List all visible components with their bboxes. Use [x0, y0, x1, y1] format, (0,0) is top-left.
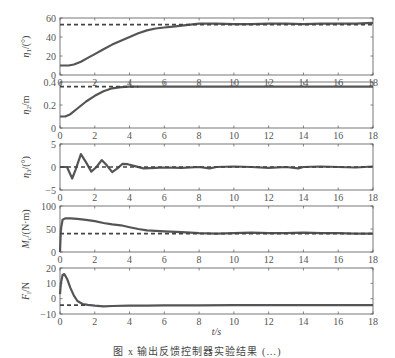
response-line — [60, 218, 373, 252]
x-tick-label: 10 — [229, 192, 239, 203]
y-tick-label: −10 — [40, 309, 56, 320]
y-tick-label: 0 — [51, 247, 56, 258]
y-tick-label: −5 — [45, 185, 56, 196]
y-axis-label: η3/(°) — [20, 156, 33, 178]
x-tick-label: 16 — [333, 192, 343, 203]
x-tick-label: 2 — [92, 316, 97, 327]
x-tick-label: 10 — [229, 316, 239, 327]
x-tick-label: 18 — [368, 130, 378, 141]
x-tick-label: 18 — [368, 316, 378, 327]
x-tick-label: 16 — [333, 254, 343, 265]
x-tick-label: 14 — [298, 130, 308, 141]
y-tick-label: 50 — [46, 224, 56, 235]
y-tick-label: 5 — [51, 139, 56, 150]
x-tick-label: 14 — [298, 192, 308, 203]
subplot-1: 0246810121416180204060η1/(°) — [20, 13, 378, 89]
x-tick-label: 4 — [127, 316, 132, 327]
y-tick-label: 0 — [51, 293, 56, 304]
x-tick-label: 8 — [197, 192, 202, 203]
x-tick-label: 8 — [197, 130, 202, 141]
response-line — [60, 87, 373, 117]
x-tick-label: 0 — [58, 192, 63, 203]
y-tick-label: 20 — [46, 263, 56, 274]
subplot-3: 024681012141618−505η3/(°) — [20, 139, 378, 204]
x-axis-label: t/s — [212, 326, 222, 337]
x-tick-label: 10 — [229, 130, 239, 141]
y-tick-label: 100 — [41, 201, 56, 212]
x-tick-label: 16 — [333, 316, 343, 327]
y-tick-label: 60 — [46, 13, 56, 24]
x-tick-label: 18 — [368, 192, 378, 203]
figure-caption: 图 x 输出反馈控制器实验结果 (…) — [0, 343, 395, 358]
x-tick-label: 6 — [162, 130, 167, 141]
response-line — [60, 23, 373, 66]
x-tick-label: 14 — [298, 316, 308, 327]
x-tick-label: 2 — [92, 254, 97, 265]
y-axis-label: Mc/(N·m) — [20, 209, 33, 249]
response-line — [60, 274, 373, 306]
x-tick-label: 16 — [333, 130, 343, 141]
x-tick-label: 0 — [58, 130, 63, 141]
y-axis-label: Fl/N — [20, 282, 33, 301]
x-tick-label: 6 — [162, 254, 167, 265]
x-tick-label: 0 — [58, 254, 63, 265]
x-tick-label: 8 — [197, 316, 202, 327]
x-tick-label: 2 — [92, 192, 97, 203]
x-tick-label: 0 — [58, 316, 63, 327]
y-tick-label: 0 — [51, 162, 56, 173]
subplot-4: 024681012141618050100Mc/(N·m) — [20, 201, 378, 266]
x-tick-label: 12 — [264, 130, 274, 141]
subplot-5: 024681012141618−1001020Fl/N — [20, 263, 378, 328]
x-tick-label: 4 — [127, 192, 132, 203]
x-tick-label: 12 — [264, 316, 274, 327]
y-tick-label: 40 — [46, 32, 56, 43]
x-tick-label: 10 — [229, 254, 239, 265]
x-tick-label: 12 — [264, 254, 274, 265]
y-tick-label: 20 — [46, 51, 56, 62]
x-tick-label: 6 — [162, 316, 167, 327]
x-tick-label: 12 — [264, 192, 274, 203]
y-tick-label: 10 — [46, 278, 56, 289]
y-axis-label: η2/m — [20, 95, 33, 114]
x-tick-label: 4 — [127, 130, 132, 141]
y-tick-label: 0.4 — [44, 77, 57, 88]
y-tick-label: 0 — [51, 123, 56, 134]
x-tick-label: 4 — [127, 254, 132, 265]
x-tick-label: 8 — [197, 254, 202, 265]
subplot-2: 02468101214161800.20.4η2/m — [20, 77, 378, 142]
y-axis-label: η1/(°) — [20, 36, 33, 58]
x-tick-label: 6 — [162, 192, 167, 203]
x-tick-label: 18 — [368, 254, 378, 265]
axes-box — [60, 206, 373, 252]
x-tick-label: 2 — [92, 130, 97, 141]
x-tick-label: 14 — [298, 254, 308, 265]
y-tick-label: 0.2 — [44, 100, 57, 111]
